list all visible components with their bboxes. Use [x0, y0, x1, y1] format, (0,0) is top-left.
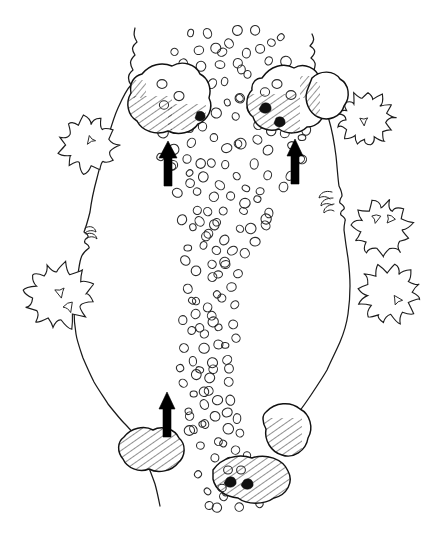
cobble-stone — [235, 428, 246, 439]
cobble-stone — [201, 231, 211, 242]
cobble-stone — [177, 378, 188, 389]
cobble-stone — [213, 179, 226, 192]
cobble-stone — [238, 197, 251, 209]
flow-arrow-right — [287, 139, 303, 184]
cobble-stone — [195, 157, 207, 169]
cobble-stone — [211, 394, 224, 406]
cobble-stone — [250, 159, 258, 170]
cobble-stone — [185, 178, 196, 189]
cobble-stone — [192, 205, 203, 216]
shrub-right-lower-outline — [358, 264, 420, 324]
cobble-stone — [215, 60, 226, 69]
cobble-stone — [213, 436, 224, 447]
cobble-stone — [203, 487, 212, 496]
cobble-stone — [182, 283, 194, 295]
cobble-stone — [233, 413, 242, 424]
cobble-stone — [229, 299, 240, 310]
cobble-stone — [226, 245, 239, 257]
cobble-stone — [189, 356, 197, 366]
sketch-map-canvas — [0, 0, 432, 536]
cobble-stone — [198, 343, 210, 354]
cobble-stone — [208, 410, 221, 423]
cobble-stone — [210, 453, 219, 462]
cobble-stone — [187, 29, 194, 38]
cobble-stone — [176, 213, 188, 226]
cobble-stone — [210, 134, 218, 142]
cobble-stone — [231, 112, 240, 121]
shrub-right-lower — [358, 264, 420, 324]
cobble-stone — [193, 469, 203, 479]
cobble-stone — [171, 187, 184, 199]
cobble-stone — [224, 363, 235, 374]
cobble-stone — [231, 24, 243, 36]
cobble-stone — [195, 323, 205, 333]
cobble-stone — [206, 157, 217, 168]
cobble-stone — [233, 136, 248, 151]
shrub-left-upper — [58, 115, 120, 174]
cobble-stone — [219, 439, 228, 448]
cobble-stone — [212, 289, 222, 299]
cobble-stone — [186, 137, 198, 149]
cobble-stone — [214, 271, 223, 279]
cobble-stone — [193, 215, 206, 228]
cobble-stone — [223, 376, 235, 388]
cobble-stone — [238, 247, 251, 260]
cobble-stone — [209, 42, 222, 55]
cobble-stone — [206, 315, 220, 329]
cobble-stone — [233, 501, 245, 513]
cobble-stone — [199, 398, 211, 410]
cobble-stone — [264, 208, 273, 219]
cobble-stone — [202, 206, 213, 218]
cobble-stone — [207, 190, 220, 203]
cobble-stone — [242, 48, 251, 58]
cobble-stone — [179, 316, 188, 325]
cobble-stone — [263, 170, 273, 181]
cobble-stone — [190, 308, 201, 320]
cobble-stone — [266, 38, 276, 48]
cobble-stone — [250, 25, 260, 35]
shrub-left-upper-outline — [58, 115, 120, 174]
cobble-stone — [230, 332, 242, 344]
cobble-stone — [218, 206, 229, 217]
sketch-map-figure — [0, 0, 432, 536]
left-bankline — [74, 28, 137, 437]
cobble-stone — [189, 223, 197, 231]
cobble-stone — [194, 45, 205, 55]
cobble-stone — [251, 133, 264, 146]
cobble-stone — [175, 363, 185, 373]
boulder-lower-left — [116, 424, 192, 480]
flow-arrows-group — [159, 139, 303, 437]
cobble-stone — [233, 268, 244, 278]
cobble-stone — [190, 264, 203, 277]
cobble-stone — [278, 181, 289, 192]
cobble-stone — [241, 184, 251, 193]
cobble-stone — [220, 142, 233, 154]
cobble-stone — [244, 222, 257, 235]
cobble-stone — [227, 318, 239, 330]
cobble-stone — [184, 245, 192, 251]
cobble-stone — [233, 92, 246, 105]
shrub-right-middle — [351, 199, 414, 256]
cobble-stone — [261, 143, 275, 157]
cobble-stone — [264, 56, 274, 67]
cobble-stone — [169, 47, 179, 57]
cobble-stone — [235, 224, 245, 234]
shrub-right-middle-outline — [351, 199, 414, 256]
boulder-upper-left-dark-spot — [195, 111, 205, 121]
cobble-stone — [219, 257, 230, 268]
cobble-stone — [225, 394, 236, 406]
cobble-stone — [214, 323, 223, 332]
cobble-stone — [221, 407, 234, 419]
cobble-stone — [185, 168, 194, 177]
cobble-stone — [184, 425, 195, 435]
cobble-stone — [221, 421, 236, 436]
cobble-stone — [255, 44, 265, 54]
cobble-stone — [199, 241, 208, 251]
cobble-stone — [212, 503, 221, 512]
shrub-left-lower — [23, 261, 94, 329]
cobble-stone — [206, 271, 218, 283]
cobble-stone — [232, 171, 242, 181]
cobble-stone — [211, 245, 223, 256]
cobble-stone — [226, 192, 235, 201]
cobble-stone — [193, 187, 202, 196]
